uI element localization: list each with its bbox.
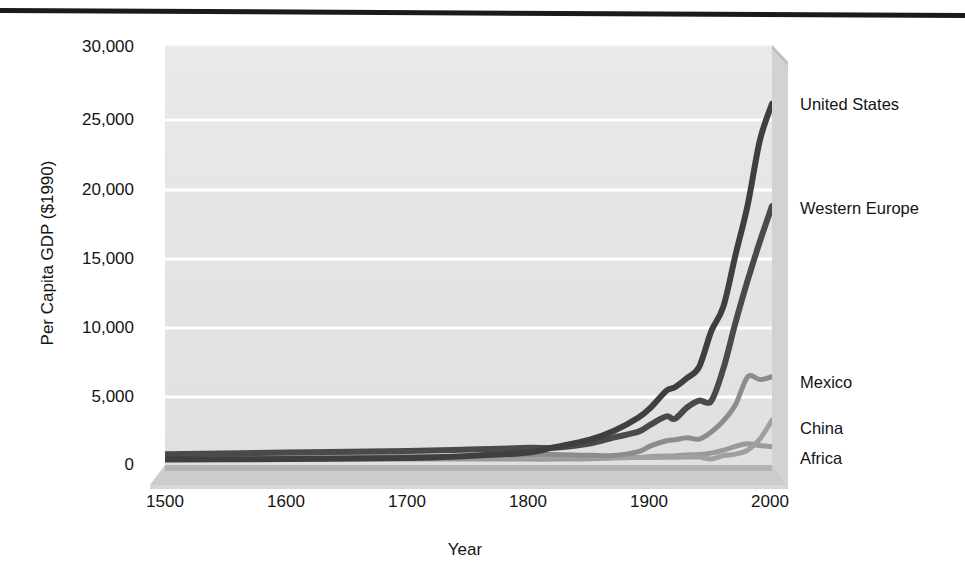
y-tick-30000: 30,000 bbox=[38, 38, 134, 55]
x-tick-1700: 1700 bbox=[367, 493, 447, 510]
x-tick-2000: 2000 bbox=[730, 493, 810, 510]
x-tick-1800: 1800 bbox=[488, 493, 568, 510]
x-tick-1600: 1600 bbox=[246, 493, 326, 510]
plot-area bbox=[165, 45, 772, 465]
figure-container: 0 5,000 10,000 15,000 20,000 25,000 30,0… bbox=[0, 0, 965, 583]
series-label-africa: Africa bbox=[800, 450, 842, 467]
y-tick-25000: 25,000 bbox=[38, 111, 134, 128]
plot-base-3d bbox=[150, 465, 788, 489]
y-tick-5000: 5,000 bbox=[38, 388, 134, 405]
x-tick-1900: 1900 bbox=[609, 493, 689, 510]
x-axis-title: Year bbox=[385, 540, 545, 560]
y-tick-0: 0 bbox=[38, 456, 134, 473]
y-axis-title: Per Capita GDP ($1990) bbox=[38, 143, 58, 363]
x-tick-1500: 1500 bbox=[125, 493, 205, 510]
series-label-united-states: United States bbox=[800, 96, 899, 113]
series-label-western-europe: Western Europe bbox=[800, 200, 919, 217]
series-label-china: China bbox=[800, 420, 843, 437]
series-label-mexico: Mexico bbox=[800, 374, 852, 391]
plot-side-3d bbox=[772, 45, 788, 485]
